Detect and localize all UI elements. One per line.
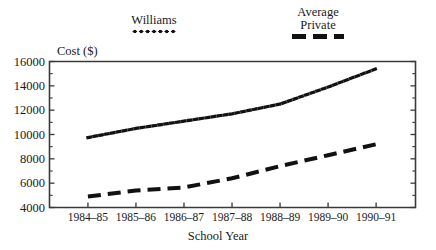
x-axis-title: School Year	[0, 229, 436, 244]
y-tick-label: 10000	[1, 127, 45, 142]
y-tick-label: 6000	[1, 176, 45, 191]
y-axis-title: Cost ($)	[57, 44, 98, 59]
x-tick-label: 1990–91	[356, 211, 396, 223]
x-tick-label: 1986–87	[164, 211, 204, 223]
x-tick-label: 1989–90	[308, 211, 348, 223]
legend-label-williams: Williams	[108, 14, 200, 27]
y-tick-label: 12000	[1, 103, 45, 118]
data-series-layer	[88, 69, 376, 197]
legend-item-average-private: Average Private	[272, 6, 364, 39]
y-axis-tick-labels: 40006000800010000120001400016000	[0, 0, 45, 250]
x-tick-label: 1987–88	[212, 211, 252, 223]
y-tick-label: 16000	[1, 54, 45, 69]
legend-label-average-private: Average Private	[272, 6, 364, 32]
dotted-line-swatch-icon	[131, 29, 177, 34]
x-tick-label: 1984–85	[68, 211, 108, 223]
y-tick-label: 8000	[1, 151, 45, 166]
dashed-line-swatch-icon	[292, 34, 344, 39]
y-tick-label: 14000	[1, 78, 45, 93]
x-tick-label: 1985–86	[116, 211, 156, 223]
chart-figure: Williams Average Private Cost ($) 400060…	[0, 0, 436, 250]
y-tick-label: 4000	[1, 200, 45, 215]
legend-item-williams: Williams	[108, 14, 200, 34]
x-tick-label: 1988–89	[260, 211, 300, 223]
